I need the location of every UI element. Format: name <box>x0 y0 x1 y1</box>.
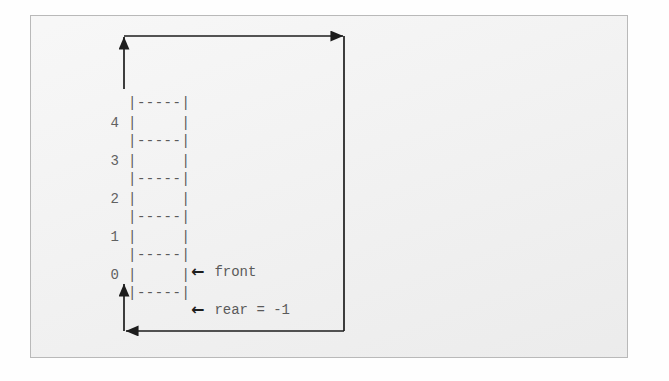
separator-art: |-----| <box>128 248 190 262</box>
cell-art-4: | | <box>128 116 190 130</box>
front-pointer-text: front <box>214 264 256 280</box>
queue-cell-4: 4 | | <box>91 113 291 132</box>
scanned-page: |-----| 4 | | |-----| 3 | | |-----| 2 <box>0 0 669 381</box>
queue-index-label-1: 1 <box>91 230 128 244</box>
left-arrow-icon: ← <box>191 264 204 280</box>
rear-pointer-label: ← rear = -1 <box>191 302 290 318</box>
queue-cell-3: 3 | | <box>91 151 291 170</box>
queue-index-label-0: 0 <box>91 268 128 282</box>
separator-art: |-----| <box>128 96 190 110</box>
left-arrow-icon: ← <box>191 302 204 318</box>
cell-art-2: | | <box>128 192 190 206</box>
cell-art-0: | | <box>128 268 190 282</box>
cell-art-3: | | <box>128 154 190 168</box>
queue-separator: |-----| <box>91 208 291 227</box>
queue-cell-1: 1 | | <box>91 227 291 246</box>
queue-index-label-2: 2 <box>91 192 128 206</box>
separator-art: |-----| <box>128 286 190 300</box>
queue-separator: |-----| <box>91 94 291 113</box>
queue-index-label-4: 4 <box>91 116 128 130</box>
rear-pointer-text: rear = -1 <box>214 302 290 318</box>
figure-panel: |-----| 4 | | |-----| 3 | | |-----| 2 <box>30 15 628 358</box>
queue-index-label-3: 3 <box>91 154 128 168</box>
separator-art: |-----| <box>128 134 190 148</box>
queue-cell-2: 2 | | <box>91 189 291 208</box>
queue-separator: |-----| <box>91 170 291 189</box>
separator-art: |-----| <box>128 210 190 224</box>
front-pointer-label: ← front <box>191 264 256 280</box>
cell-art-1: | | <box>128 230 190 244</box>
separator-art: |-----| <box>128 172 190 186</box>
queue-separator: |-----| <box>91 132 291 151</box>
